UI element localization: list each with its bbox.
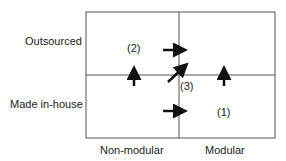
y-label-outsourced: Outsourced [25, 35, 82, 47]
quadrant-label-2: (2) [127, 42, 140, 54]
quadrant-label-3: (3) [180, 80, 193, 92]
matrix-diagram [0, 0, 286, 161]
x-label-modular: Modular [205, 144, 245, 156]
x-label-non-modular: Non-modular [100, 144, 164, 156]
quadrant-label-1: (1) [217, 106, 230, 118]
y-label-made-in-house: Made in-house [10, 98, 83, 110]
